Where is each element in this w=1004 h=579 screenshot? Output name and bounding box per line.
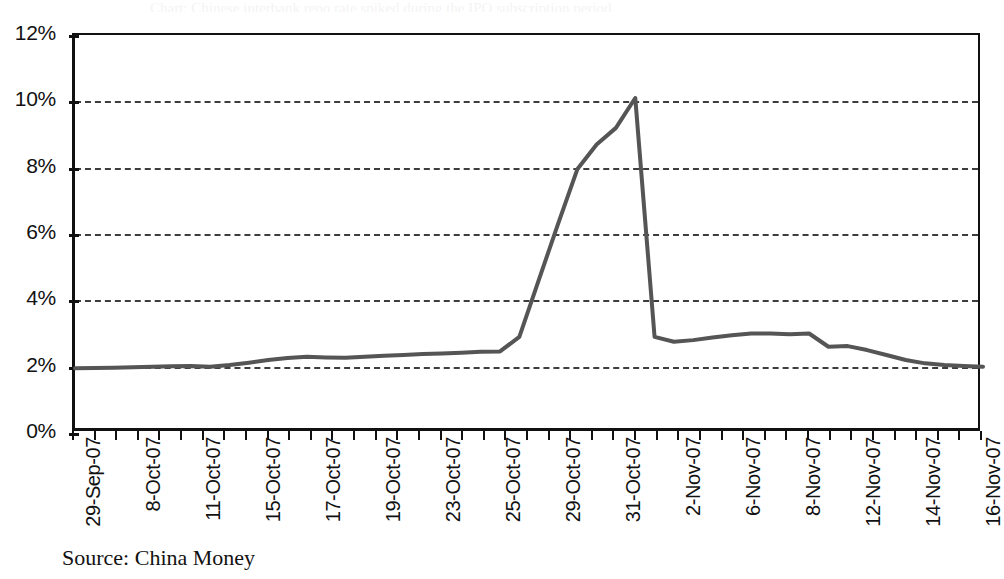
data-series-line: [75, 35, 983, 433]
x-axis-label-31-Oct-07: 31-Oct-07: [616, 437, 636, 522]
y-axis-label-0%: 0%: [26, 419, 56, 443]
x-axis-label-16-Nov-07: 16-Nov-07: [976, 437, 996, 527]
y-axis-label-4%: 4%: [26, 286, 56, 310]
cropped-header-text: Chart: Chinese interbank repo rate spike…: [150, 0, 850, 12]
x-axis-label-12-Nov-07: 12-Nov-07: [856, 437, 876, 527]
x-axis-label-8-Oct-07: 8-Oct-07: [136, 437, 156, 512]
x-axis-label-15-Oct-07: 15-Oct-07: [256, 437, 276, 522]
x-axis-label-25-Oct-07: 25-Oct-07: [496, 437, 516, 522]
x-axis-label-19-Oct-07: 19-Oct-07: [376, 437, 396, 522]
y-axis-label-12%: 12%: [15, 21, 56, 45]
x-axis-label-29-Oct-07: 29-Oct-07: [556, 437, 576, 522]
plot-inner: [75, 35, 978, 428]
x-axis-label-6-Nov-07: 6-Nov-07: [736, 437, 756, 516]
y-axis-label-8%: 8%: [26, 154, 56, 178]
y-axis-label-10%: 10%: [15, 87, 56, 111]
y-axis-label-6%: 6%: [26, 220, 56, 244]
x-axis-labels: 29-Sep-078-Oct-0711-Oct-0715-Oct-0717-Oc…: [72, 437, 980, 547]
series-polyline: [75, 98, 983, 368]
x-axis-label-2-Nov-07: 2-Nov-07: [676, 437, 696, 516]
y-axis-label-2%: 2%: [26, 353, 56, 377]
x-axis-label-8-Nov-07: 8-Nov-07: [796, 437, 816, 516]
plot-area: [72, 33, 980, 431]
x-axis-label-14-Nov-07: 14-Nov-07: [916, 437, 936, 527]
x-axis-label-11-Oct-07: 11-Oct-07: [196, 437, 216, 521]
y-axis-labels: 0%2%4%6%8%10%12%: [0, 0, 62, 579]
x-axis-label-23-Oct-07: 23-Oct-07: [436, 437, 456, 522]
x-axis-label-17-Oct-07: 17-Oct-07: [316, 437, 336, 522]
source-note: Source: China Money: [62, 545, 255, 571]
x-axis-label-29-Sep-07: 29-Sep-07: [76, 437, 96, 527]
